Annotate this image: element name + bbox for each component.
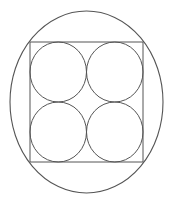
circle-top-left — [30, 42, 87, 102]
circle-top-right — [87, 42, 144, 102]
circle-bottom-right — [87, 102, 144, 162]
outer-ellipse — [10, 11, 163, 193]
circle-bottom-left — [30, 102, 87, 162]
geometry-diagram — [0, 0, 171, 200]
inscribed-square — [30, 42, 143, 162]
